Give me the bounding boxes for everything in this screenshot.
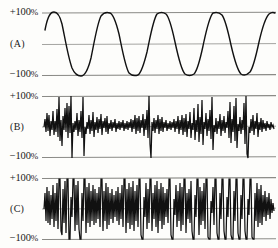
clipped-noise-panel: +100% −100% (C) [0,163,278,248]
panel-a-gridline-zero [42,44,276,45]
panel-c-gridline-bottom [42,239,276,240]
panel-b-gridline-bottom [42,157,276,158]
panel-b-gridline-top [42,96,276,97]
panel-c-clipped-trace [44,179,274,239]
panel-b-noise-trace [44,96,274,158]
random-noise-panel: +100% −100% (B) [0,82,278,166]
panel-c-plot [0,163,278,248]
waveform-figure: +100% −100% (A) +100% −100% (B) [0,0,278,248]
panel-a-plot [0,0,278,84]
sine-wave-panel: +100% −100% (A) [0,0,278,84]
panel-c-gridline-top [42,178,276,179]
panel-b-plot [0,82,278,166]
